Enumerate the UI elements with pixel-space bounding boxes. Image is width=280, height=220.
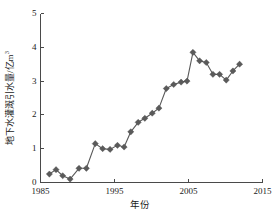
x-axis-tick-label: 2015 (246, 186, 280, 196)
data-point-marker (83, 165, 89, 171)
data-point-marker (142, 115, 148, 121)
data-point-marker (107, 146, 113, 152)
y-axis-tick-label: 3 (25, 76, 37, 86)
data-point-marker (171, 81, 177, 87)
data-point-marker (178, 79, 184, 85)
data-point-marker (121, 144, 127, 150)
chart-axes (41, 14, 263, 183)
data-point-marker (163, 85, 169, 91)
x-axis-title: 年份 (0, 199, 279, 211)
data-point-marker (210, 71, 216, 77)
data-point-marker (46, 171, 52, 177)
axis-spine (41, 14, 263, 183)
data-point-marker (92, 141, 98, 147)
y-axis-tick-label: 5 (25, 8, 37, 18)
chart-figure: 012345 1985199520052015 地下水灌溉引水量/亿m3 年份 (0, 0, 279, 220)
data-point-marker (100, 146, 106, 152)
x-axis-tick-label: 2005 (172, 186, 206, 196)
y-axis-tick-label: 4 (25, 42, 37, 52)
y-axis-tick-label: 1 (25, 143, 37, 153)
x-axis-tick-label: 1985 (24, 186, 58, 196)
data-point-marker (203, 59, 209, 65)
y-axis-title-superscript: 3 (3, 51, 10, 54)
y-axis-title: 地下水灌溉引水量/亿m3 (1, 13, 15, 182)
y-axis-tick-label: 2 (25, 109, 37, 119)
y-axis-title-text: 地下水灌溉引水量/亿m (5, 54, 15, 145)
data-point-marker (184, 78, 190, 84)
x-axis-tick-label: 1995 (98, 186, 132, 196)
chart-series-group (46, 49, 242, 182)
data-point-marker (114, 142, 120, 148)
